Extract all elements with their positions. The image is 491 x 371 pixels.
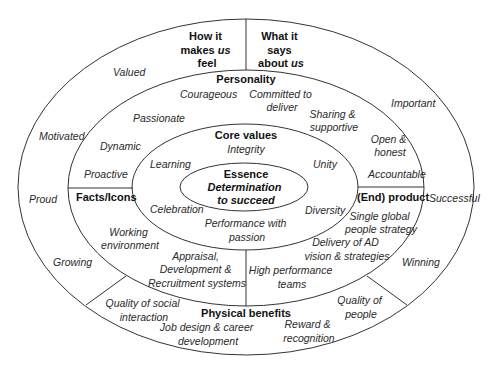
facts-working-environment: Working environment [101, 226, 160, 251]
end-product-delivery: Delivery of AD vision & strategies [304, 236, 390, 262]
outer-item-growing: Growing [53, 256, 92, 268]
personality-passionate: Passionate [133, 112, 185, 124]
essence-title: Essence [224, 168, 269, 180]
outer-item-motivated: Motivated [39, 130, 86, 142]
outer-header-left: How it makes us feel [180, 30, 233, 69]
brand-onion-diagram: How it makes us feel What it says about … [0, 0, 491, 371]
facts-icons-title: Facts/Icons [76, 191, 137, 203]
personality-accountable: Accountable [367, 168, 426, 180]
personality-committed: Committed to deliver [249, 88, 314, 113]
outer-item-winning: Winning [402, 256, 440, 268]
physical-job-design: Job design & career development [159, 321, 256, 347]
end-product-title: (End) product [357, 191, 429, 203]
core-value-performance: Performance with passion [205, 217, 290, 243]
end-product-high-performance: High performance teams [249, 264, 335, 290]
outer-header-right: What it says about us [258, 30, 304, 69]
core-value-diversity: Diversity [305, 204, 346, 216]
personality-dynamic: Dynamic [100, 140, 142, 152]
core-value-unity: Unity [313, 158, 338, 170]
personality-title: Personality [216, 73, 276, 85]
core-value-integrity: Integrity [227, 143, 265, 155]
physical-benefits-title: Physical benefits [201, 307, 291, 319]
end-product-single-global: Single global people strategy [344, 210, 418, 235]
core-values-title: Core values [215, 129, 277, 141]
physical-reward: Reward & recognition [283, 318, 335, 344]
essence-statement: Determination to succeed [207, 181, 284, 206]
core-value-learning: Learning [150, 158, 191, 170]
outer-item-quality-social: Quality of social interaction [105, 297, 182, 323]
personality-proactive: Proactive [84, 168, 128, 180]
outer-item-successful: Successful [429, 192, 480, 204]
facts-appraisal: Appraisal, Development & Recruitment sys… [148, 250, 247, 289]
personality-sharing: Sharing & supportive [309, 108, 358, 133]
personality-courageous: Courageous [180, 88, 238, 100]
outer-item-valued: Valued [113, 66, 146, 78]
core-value-celebration: Celebration [150, 203, 204, 215]
outer-item-proud: Proud [29, 193, 58, 205]
outer-item-quality-people: Quality of people [337, 294, 384, 320]
outer-item-important: Important [391, 97, 436, 109]
personality-open: Open & honest [371, 133, 410, 158]
